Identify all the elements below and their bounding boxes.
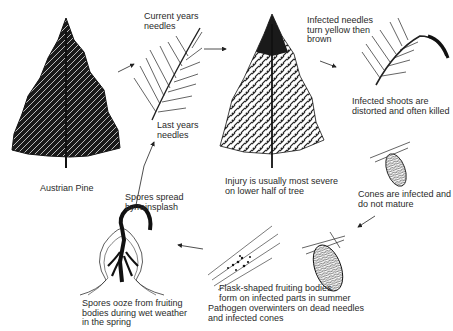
arrow-tree-to-infected [320,61,336,67]
austrian-pine-illustration [12,18,120,168]
label-injury-severity: Injury is usually most severe on lower h… [225,177,338,196]
label-overwinter: Pathogen overwinters on dead needles and… [208,304,364,323]
pycnidium-illustration [80,206,164,295]
arrow-cone-to-overwinter [358,216,375,227]
diagram-art [0,0,453,331]
arrow-spread-to-needles [144,142,154,166]
infected-cone-illustration [370,142,410,189]
label-current-years-needles: Current years needles [144,12,199,31]
label-spores-spread: Spores spread by rainsplash [125,193,184,212]
label-austrian-pine: Austrian Pine [40,184,94,194]
label-infected-shoots: Infected shoots are distorted and often … [352,97,450,116]
label-last-years-needles: Last years needles [157,121,199,140]
needle-twig-illustration [134,28,202,120]
arrow-host-to-needles [118,64,134,72]
label-infected-needles: Infected needles turn yellow then brown [307,16,373,45]
fruiting-bodies-illustration [208,226,280,290]
label-cones-infected: Cones are infected and do not mature [358,190,451,209]
infected-shoot-illustration [362,18,448,85]
label-spores-ooze: Spores ooze from fruiting bodies during … [82,299,187,328]
arrow-fruiting-to-ooze [178,245,203,249]
label-flask-fruiting-bodies: Flask-shaped fruiting bodies form on inf… [219,284,351,303]
